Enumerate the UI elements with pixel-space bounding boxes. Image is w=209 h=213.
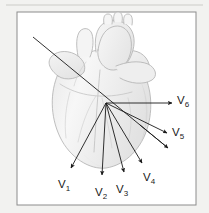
heart-vector-diagram: V1 V2 V3 V4 V5 V6 <box>0 0 209 213</box>
superior-vena-cava <box>77 29 93 57</box>
carotid-stub <box>114 12 123 22</box>
figure-container: V1 V2 V3 V4 V5 V6 <box>0 0 209 213</box>
subclavian-stub <box>124 14 133 25</box>
brachiocephalic-stub <box>104 14 113 24</box>
